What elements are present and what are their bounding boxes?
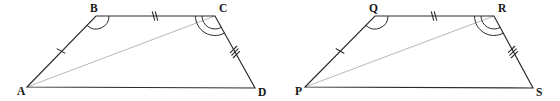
vertex-label-a: A (17, 85, 26, 97)
vertex-label-d: D (258, 86, 266, 98)
vertex-label-b: B (90, 2, 98, 14)
geometry-figure-canvas: ABCDPQRS (0, 0, 560, 101)
vertex-label-c: C (219, 2, 227, 14)
vertex-label-s: S (536, 86, 542, 98)
vertex-label-p: P (295, 85, 302, 97)
canvas-background (0, 0, 560, 101)
vertex-label-r: R (498, 2, 507, 14)
vertex-label-q: Q (369, 2, 378, 14)
